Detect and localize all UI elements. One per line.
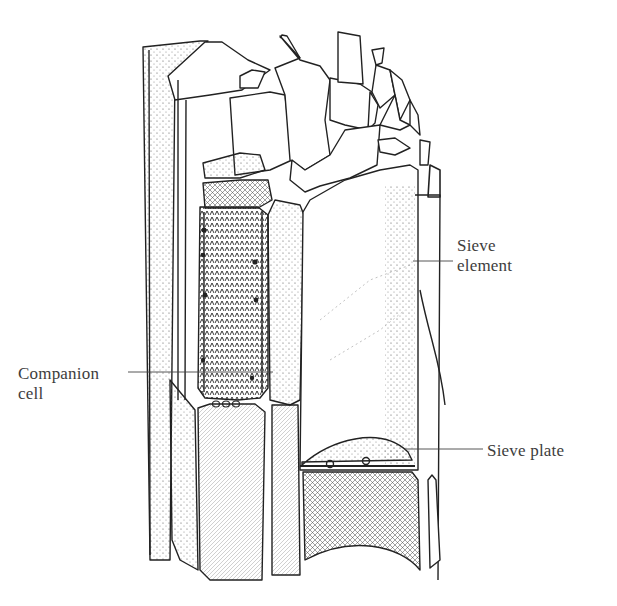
cross-section-cell (203, 180, 272, 208)
lower-left-cell (198, 404, 265, 580)
label-companion-cell: Companion cell (18, 364, 99, 404)
label-sieve-element-line2: element (457, 256, 512, 276)
label-sieve-element-line1: Sieve (457, 236, 512, 256)
label-companion-cell-line1: Companion (18, 364, 99, 384)
phloem-diagram (0, 0, 617, 606)
lower-sieve-element (303, 472, 420, 570)
plastid-cell (203, 153, 265, 178)
label-sieve-element: Sieve element (457, 236, 512, 276)
parenchyma-cell (268, 200, 304, 405)
label-sieve-plate: Sieve plate (487, 441, 564, 461)
companion-cell-drawing (198, 207, 268, 407)
label-companion-cell-line2: cell (18, 384, 99, 404)
tissue-drawing (143, 32, 445, 580)
